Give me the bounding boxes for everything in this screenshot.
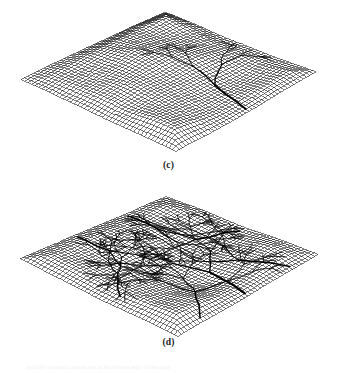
channel-segment bbox=[118, 281, 119, 288]
figure-panel-c: (c) bbox=[0, 0, 337, 180]
panel-label-d: (d) bbox=[0, 337, 337, 347]
wireframe-surface-d bbox=[0, 180, 337, 340]
channel-segment bbox=[210, 264, 211, 272]
figure-root: (c) (d) partially cropped caption text a… bbox=[0, 0, 337, 373]
channel-segment bbox=[210, 251, 211, 257]
channel-segment bbox=[167, 258, 169, 259]
figure-panel-d: (d) bbox=[0, 180, 337, 355]
channel-segment bbox=[268, 260, 272, 261]
channel-segment bbox=[209, 242, 212, 243]
channel-segment bbox=[106, 241, 107, 242]
terrain-surface-d bbox=[0, 180, 337, 335]
channel-segment bbox=[199, 305, 200, 318]
channel-segment bbox=[177, 214, 178, 216]
channel-segment bbox=[204, 224, 208, 225]
terrain-surface-c bbox=[0, 0, 337, 160]
channel-segment bbox=[145, 53, 149, 54]
wireframe-surface-c bbox=[0, 0, 337, 160]
channel-segment bbox=[263, 255, 264, 257]
channel-segment bbox=[210, 258, 211, 265]
caption-remnant: partially cropped caption text at the bo… bbox=[26, 364, 326, 372]
channel-segment bbox=[136, 217, 140, 218]
surface-plate-c bbox=[21, 12, 316, 151]
panel-label-c: (c) bbox=[0, 160, 337, 170]
